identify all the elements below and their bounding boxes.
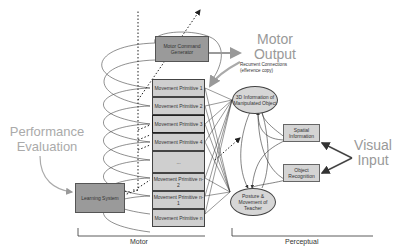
spatial-information-box: Spatial Information [283,124,320,142]
object-3d-info-node: 3D Information of Manipulated Object [232,86,278,114]
movement-primitive-4: Movement Primitive 4 [152,133,205,151]
diagram-canvas: Motor Command Generator Motor Output Rec… [0,0,400,249]
movement-primitive-2: Movement Primitive 2 [152,97,205,115]
performance-evaluation-label: Performance Evaluation [0,124,94,154]
perceptual-section-label: Perceptual [285,238,318,245]
movement-primitive-3: Movement Primitive 3 [152,115,205,133]
movement-primitive-1: Movement Primitive 1 [152,79,205,97]
movement-primitive-n: Movement Primitive n [152,209,205,227]
recurrent-connections-label: Recurrent Connections (efference copy) [240,62,310,73]
motor-output-label: Motor Output [240,32,310,62]
learning-system-box: Learning System [75,183,125,213]
object-recognition-box: Object Recognition [283,164,320,182]
motor-section-label: Motor [130,238,148,245]
motor-command-generator-box: Motor Command Generator [155,36,209,62]
visual-input-label: Visual Input [346,138,400,168]
motor-command-generator-label: Motor Command Generator [156,43,208,55]
movement-primitive-n-2: Movement Primitive n-2 [152,173,205,191]
posture-movement-teacher-node: Posture & Movement of Teacher [230,188,276,216]
movement-primitive-ellipsis: ... [152,151,205,173]
movement-primitive-n-1: Movement Primitive n-1 [152,191,205,209]
